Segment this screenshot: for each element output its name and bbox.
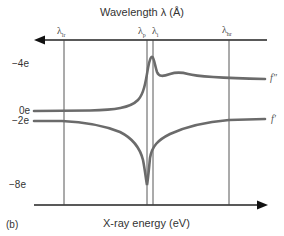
marker-lambda-hr: λhr [222, 25, 232, 37]
marker-sub: i [157, 32, 159, 38]
f-double-prime-label: f″ [270, 73, 277, 83]
y-tick-minus-2e: −2e [12, 116, 29, 126]
marker-lambda-lr: λlr [57, 26, 66, 38]
panel-label: (b) [6, 220, 18, 230]
marker-sub: hr [227, 31, 232, 37]
y-tick-minus-8e: −8e [9, 180, 26, 190]
energy-axis-title: X-ray energy (eV) [103, 218, 190, 229]
f-prime-label: f′ [271, 114, 276, 124]
right-arrow-icon [257, 201, 268, 210]
energy-axis [34, 201, 268, 210]
marker-lambda-i: λi [152, 26, 159, 38]
y-tick-minus-4e: −4e [12, 59, 29, 69]
f-double-prime-curve [34, 57, 265, 111]
marker-sub: lr [62, 32, 66, 38]
wavelength-axis-title: Wavelength λ (Å) [100, 7, 184, 18]
f-prime-curve [34, 119, 265, 185]
marker-lambda-p: λp [138, 26, 146, 38]
wavelength-axis [34, 36, 267, 45]
marker-sub: p [143, 32, 146, 38]
left-arrow-icon [34, 36, 45, 45]
